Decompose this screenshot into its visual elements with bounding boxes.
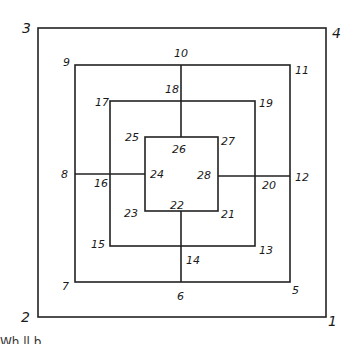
label-22: 22 (170, 199, 184, 212)
label-4: 4 (332, 25, 341, 41)
label-2: 2 (21, 309, 30, 325)
label-12: 12 (295, 171, 309, 184)
label-26: 26 (172, 143, 186, 156)
label-25: 25 (125, 131, 139, 144)
label-21: 21 (221, 208, 235, 221)
label-1: 1 (328, 313, 337, 329)
label-3: 3 (22, 20, 31, 36)
label-18: 18 (165, 83, 179, 96)
label-24: 24 (150, 168, 164, 181)
outer-square (38, 28, 326, 317)
label-15: 15 (91, 238, 105, 251)
label-9: 9 (63, 56, 70, 69)
label-16: 16 (94, 177, 108, 190)
label-11: 11 (295, 64, 309, 77)
label-19: 19 (259, 97, 273, 110)
label-7: 7 (62, 280, 69, 293)
label-28: 28 (197, 169, 211, 182)
label-13: 13 (259, 244, 273, 257)
nested-squares-diagram: 3 4 2 1 9 10 11 8 12 7 6 5 17 18 19 16 2… (0, 0, 359, 344)
label-14: 14 (186, 254, 200, 267)
label-27: 27 (221, 135, 235, 148)
label-6: 6 (177, 290, 184, 303)
label-8: 8 (61, 168, 68, 181)
label-20: 20 (262, 179, 276, 192)
label-10: 10 (174, 47, 188, 60)
label-17: 17 (95, 96, 109, 109)
cropped-caption-fragment: Wh ll b (0, 336, 200, 344)
label-23: 23 (124, 207, 138, 220)
label-5: 5 (292, 284, 299, 297)
